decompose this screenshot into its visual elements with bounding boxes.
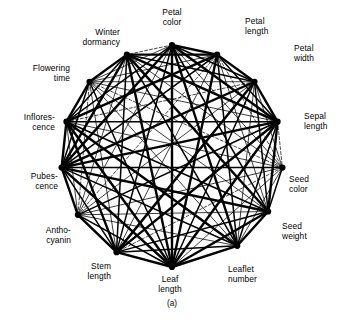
graph-node[interactable] [234,243,240,249]
node-label: Petalcolor [162,8,182,27]
figure-caption: (a) [167,299,177,308]
graph-node[interactable] [59,165,65,171]
node-label-line: length [304,122,327,132]
node-label: Petallength [245,17,268,36]
graph-node[interactable] [75,212,81,218]
node-label: Floweringtime [33,64,70,83]
node-label-line: dormancy [82,38,120,48]
node-label: Sepallength [304,112,327,131]
graph-node[interactable] [63,119,69,125]
graph-node[interactable] [113,249,119,255]
node-label: Leafletnumber [228,265,257,284]
node-label-line: cence [31,182,58,192]
circular-correlation-diagram: PetalcolorPetallengthPetalwidthSepalleng… [0,0,345,330]
graph-edge [66,45,172,122]
node-label: Seedweight [282,222,307,241]
node-label: Seedcolor [289,175,309,194]
node-label: Leaflength [158,275,181,294]
node-label-line: number [228,275,257,285]
node-label-line: length [88,272,111,282]
node-label-line: color [162,18,182,28]
node-label-line: color [289,185,309,195]
graph-node[interactable] [279,165,285,171]
graph-edge [172,45,268,212]
graph-node[interactable] [251,79,257,85]
node-label: Antho-cyanin [46,226,71,245]
node-label-line: weight [282,232,307,242]
graph-edge [217,55,277,122]
node-label-line: cyanin [46,236,71,246]
node-label: Inflores-cence [24,113,55,132]
graph-edge [237,212,268,246]
node-label: Stemlength [88,262,111,281]
graph-edge [66,55,126,122]
graph-edge [172,212,268,268]
node-label-line: length [245,27,268,37]
node-label-line: length [158,285,181,295]
graph-node[interactable] [274,119,280,125]
graph-node[interactable] [124,52,130,58]
node-label-line: cence [24,123,55,133]
graph-node[interactable] [169,42,175,48]
graph-node[interactable] [169,264,175,270]
node-label-line: width [294,54,314,64]
edge-layer [62,45,283,267]
node-label: Winterdormancy [82,28,120,47]
node-label: Pubes-cence [31,172,58,191]
graph-node[interactable] [214,52,220,58]
graph-node[interactable] [86,79,92,85]
node-label-line: time [33,74,70,84]
node-label: Petalwidth [294,44,314,63]
graph-node[interactable] [265,208,271,214]
